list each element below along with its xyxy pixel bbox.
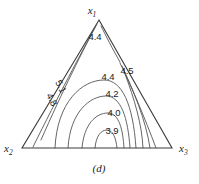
contour-label-4-4-arch: 4.4	[101, 71, 114, 82]
contour-label-4-5: 4.5	[120, 65, 133, 76]
contour-label-4-2: 4.2	[105, 88, 118, 99]
contour-label-4-8: 4.8	[44, 91, 60, 108]
contour-line-4-4-apex	[101, 26, 120, 62]
contour-label-4-4-apex: 4.4	[88, 31, 101, 42]
vertex-label-x2: x2	[3, 142, 13, 157]
contour-plot-svg: x1 x2 x3 4.4 4.5 4.4 4.2 4.0 3.9 5.1 4.8…	[0, 0, 199, 184]
contour-line-4-2-arch	[68, 96, 130, 148]
figure-caption: (d)	[93, 162, 106, 175]
vertex-label-x3: x3	[178, 142, 188, 157]
ternary-contour-figure: x1 x2 x3 4.4 4.5 4.4 4.2 4.0 3.9 5.1 4.8…	[0, 0, 199, 184]
vertex-label-x1: x1	[87, 4, 97, 19]
contour-label-3-9: 3.9	[105, 125, 118, 136]
contour-label-4-0: 4.0	[107, 107, 120, 118]
